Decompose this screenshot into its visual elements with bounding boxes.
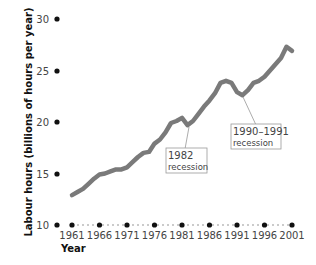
x-tick-label: 1996 [252,230,277,241]
y-tick-label: 25 [36,66,49,77]
y-axis: 30 25 20 15 10 [36,14,59,231]
annotation-leader [243,97,256,125]
annotation-leader [185,127,189,149]
x-tick-dot [179,222,184,227]
y-axis-title: Labour hours (billions of hours per year… [23,7,34,236]
annotation-1982-recession: 1982 recession [166,127,208,173]
y-tick-dot [54,171,59,176]
x-tick-label: 1991 [224,230,249,241]
x-tick-dot [69,222,74,227]
x-tick-label: 1986 [197,230,222,241]
y-tick-label: 20 [36,117,49,128]
x-axis-title: Year [60,243,86,254]
annotation-text: recession [233,138,273,148]
y-tick-dot [54,16,59,21]
y-tick-label: 10 [36,220,49,231]
y-tick-label: 30 [36,14,49,25]
x-tick-label: 1961 [59,230,84,241]
x-tick-label: 1976 [142,230,167,241]
y-tick-dot [54,222,59,227]
annotation-text: 1990–1991 [233,126,289,137]
x-tick-label: 1966 [87,230,112,241]
x-tick-dot [234,222,239,227]
x-tick-label: 2001 [279,230,304,241]
y-tick-dot [54,68,59,73]
x-tick-label: 1981 [169,230,194,241]
x-tick-label: 1971 [114,230,139,241]
x-tick-dot [207,222,212,227]
y-tick-dot [54,119,59,124]
y-tick-label: 15 [36,169,49,180]
x-tick-dot [262,222,267,227]
labour-hours-chart: Labour hours (billions of hours per year… [0,0,316,265]
x-tick-dot [289,222,294,227]
x-tick-dot [152,222,157,227]
annotation-text: 1982 [168,150,193,161]
x-tick-dot [97,222,102,227]
annotation-text: recession [168,162,208,172]
x-tick-dot [124,222,129,227]
annotation-1990-1991-recession: 1990–1991 recession [231,97,289,149]
